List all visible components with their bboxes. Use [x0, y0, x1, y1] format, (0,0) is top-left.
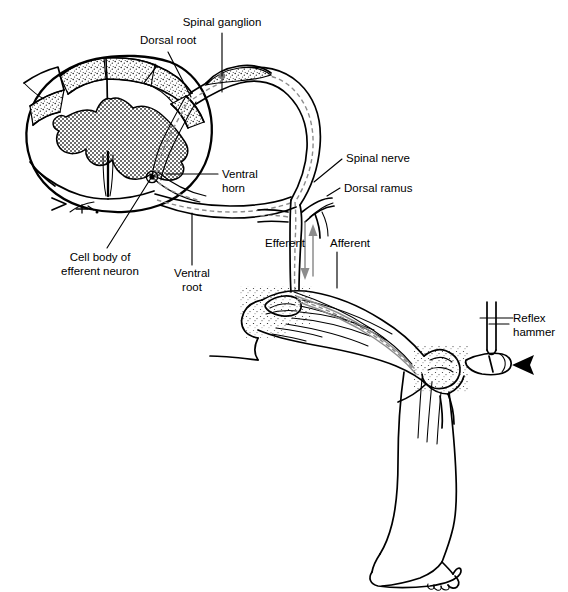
- ventral-fissure-detail: [52, 198, 99, 214]
- spinal-cord-cross-section: [24, 56, 212, 214]
- label-cell-body-line2: efferent neuron: [61, 265, 139, 277]
- leader-dorsal-ramus: [327, 188, 340, 196]
- reflex-arc-diagram: Dorsal root Spinal ganglion Ventral horn…: [0, 0, 568, 592]
- figure-canvas: Dorsal root Spinal ganglion Ventral horn…: [0, 0, 568, 592]
- label-cell-body-line1: Cell body of: [70, 251, 132, 263]
- label-reflex-hammer-line1: Reflex: [513, 312, 546, 324]
- lower-leg-foot: [370, 372, 461, 590]
- reflex-hammer: [466, 302, 513, 375]
- label-reflex-hammer-line2: hammer: [513, 326, 555, 338]
- label-spinal-ganglion: Spinal ganglion: [183, 16, 262, 28]
- leg-thigh-knee: [210, 286, 470, 428]
- label-ventral-horn-line2: horn: [222, 182, 245, 194]
- label-ventral-root-line1: Ventral: [174, 267, 210, 279]
- afferent-arrow: [309, 224, 318, 276]
- label-ventral-root-line2: root: [182, 281, 203, 293]
- label-afferent: Afferent: [330, 237, 371, 249]
- strike-arrow: [512, 355, 534, 375]
- label-dorsal-root: Dorsal root: [140, 34, 197, 46]
- label-ventral-horn-line1: Ventral: [222, 168, 258, 180]
- label-dorsal-ramus: Dorsal ramus: [344, 182, 413, 194]
- label-spinal-nerve: Spinal nerve: [346, 152, 410, 164]
- label-efferent: Efferent: [265, 237, 306, 249]
